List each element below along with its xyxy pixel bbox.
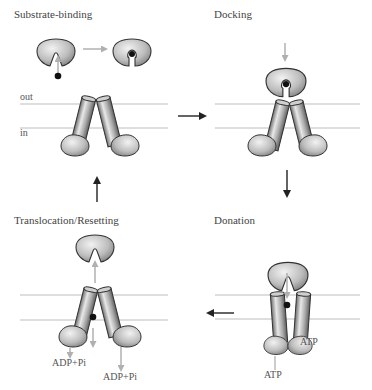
- panel-substrate-binding: [20, 39, 168, 156]
- panel-donation: [215, 262, 360, 370]
- membrane-label-in: in: [20, 127, 28, 138]
- adp-pi-label-left: ADP+Pi: [52, 357, 86, 368]
- panel-translocation-resetting: [20, 235, 168, 370]
- transporter-docked: [248, 68, 327, 156]
- panel-title-docking: Docking: [214, 8, 252, 20]
- cap-closed-icon: [113, 39, 151, 66]
- panel-docking: [215, 43, 360, 156]
- substrate-dot: [55, 73, 62, 80]
- atp-label-left: ATP: [264, 369, 282, 380]
- membrane-label-out: out: [20, 91, 33, 102]
- atp-label-right: ATP: [300, 336, 318, 347]
- diagram-graphics: [0, 0, 372, 390]
- cap-open-icon: [37, 39, 75, 66]
- adp-pi-label-right: ADP+Pi: [103, 371, 137, 382]
- transport-cycle-diagram: Substrate-binding out in Docking Donatio…: [0, 0, 372, 390]
- panel-title-substrate-binding: Substrate-binding: [14, 8, 92, 20]
- panel-title-donation: Donation: [214, 214, 255, 226]
- cap-donating-icon: [268, 262, 308, 290]
- panel-title-translocation-resetting: Translocation/Resetting: [14, 214, 119, 226]
- substrate-dot: [284, 302, 291, 309]
- substrate-dot: [90, 314, 97, 321]
- cap-docked-icon: [266, 68, 306, 96]
- transporter-closed: [264, 262, 312, 370]
- cap-released-icon: [76, 235, 114, 262]
